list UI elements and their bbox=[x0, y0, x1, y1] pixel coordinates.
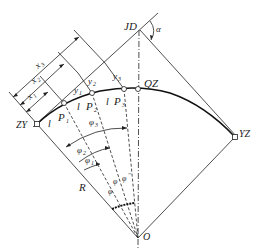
curve-diagram: JD α QZ ZY YZ O R l P 1 l P 2 l P 3 x 1 … bbox=[0, 0, 264, 251]
label-phi2: φ bbox=[77, 145, 82, 155]
zy-marker bbox=[35, 122, 40, 127]
label-phi1: φ bbox=[85, 155, 90, 165]
label-jd: JD bbox=[124, 20, 137, 32]
label-phi1-sub: 1 bbox=[91, 160, 94, 166]
label-p3-sub: 3 bbox=[121, 102, 125, 108]
label-y2-sub: 2 bbox=[93, 81, 96, 87]
p2-marker bbox=[90, 91, 95, 96]
radius-p1 bbox=[64, 103, 138, 238]
label-y3-sub: 3 bbox=[117, 76, 121, 82]
bisector-jd-o bbox=[138, 30, 139, 248]
label-y3: y bbox=[112, 71, 117, 81]
label-y1-sub: 1 bbox=[79, 90, 82, 96]
label-y2: y bbox=[87, 76, 92, 86]
qz-marker bbox=[136, 87, 141, 92]
label-l-2: l bbox=[77, 101, 80, 112]
center-angle-arc bbox=[112, 203, 135, 209]
x2-ext bbox=[58, 52, 78, 73]
label-yz: YZ bbox=[239, 128, 251, 139]
p1-marker bbox=[62, 101, 67, 106]
label-l-1: l bbox=[48, 118, 51, 129]
label-p1-sub: 1 bbox=[66, 118, 69, 124]
x3-dim bbox=[13, 37, 79, 97]
p3-marker bbox=[122, 87, 127, 92]
radius-p3 bbox=[124, 89, 138, 238]
x3-ext bbox=[74, 30, 105, 63]
label-phi-b: φ bbox=[113, 177, 118, 186]
label-phi3-sub: 3 bbox=[94, 122, 98, 128]
radius-yz-o bbox=[138, 137, 235, 238]
label-zy: ZY bbox=[16, 119, 29, 130]
phi3-arc bbox=[66, 128, 127, 147]
label-phi-a: φ bbox=[108, 187, 113, 196]
label-y1: y bbox=[73, 85, 78, 95]
label-r: R bbox=[78, 181, 86, 193]
label-phi-c-sup: " bbox=[128, 172, 131, 178]
label-p3: P bbox=[113, 95, 121, 107]
circular-curve bbox=[37, 88, 235, 137]
label-p1: P bbox=[57, 111, 65, 123]
label-phi3: φ bbox=[89, 117, 94, 127]
label-l-3: l bbox=[106, 96, 109, 107]
label-phi-c: φ bbox=[122, 174, 127, 183]
label-qz: QZ bbox=[144, 77, 159, 89]
yz-marker bbox=[233, 135, 238, 140]
label-o: O bbox=[143, 231, 150, 242]
label-alpha: α bbox=[156, 24, 161, 34]
label-p2-sub: 2 bbox=[94, 107, 97, 113]
label-p2: P bbox=[85, 100, 93, 112]
